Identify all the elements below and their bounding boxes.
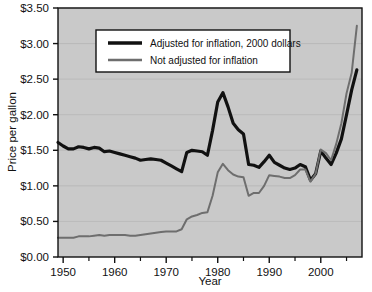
y-tick-label: $0.00 (20, 251, 49, 263)
y-tick-label: $2.50 (20, 73, 49, 85)
y-tick-label: $3.00 (20, 38, 49, 50)
chart-figure: $0.00$0.50$1.00$1.50$2.00$2.50$3.00$3.50… (0, 0, 372, 292)
chart-legend: Adjusted for inflation, 2000 dollars Not… (96, 30, 301, 72)
x-tick-label: 1960 (102, 266, 128, 278)
x-tick-label: 1990 (256, 266, 282, 278)
x-tick-label: 2000 (308, 266, 334, 278)
x-tick-label: 1970 (153, 266, 179, 278)
y-axis-title: Price per gallon (6, 92, 18, 172)
y-tick-label: $1.50 (20, 144, 49, 156)
y-tick-label: $1.00 (20, 180, 49, 192)
y-tick-label: $0.50 (20, 215, 49, 227)
y-tick-label: $2.00 (20, 109, 49, 121)
y-axis: $0.00$0.50$1.00$1.50$2.00$2.50$3.00$3.50 (20, 2, 58, 263)
x-axis-title: Year (198, 275, 221, 287)
x-tick-label: 1950 (50, 266, 76, 278)
legend-label-nominal: Not adjusted for inflation (150, 55, 258, 66)
y-tick-label: $3.50 (20, 2, 49, 14)
legend-label-adjusted: Adjusted for inflation, 2000 dollars (150, 38, 301, 49)
gasoline-price-line-chart: $0.00$0.50$1.00$1.50$2.00$2.50$3.00$3.50… (0, 0, 372, 292)
